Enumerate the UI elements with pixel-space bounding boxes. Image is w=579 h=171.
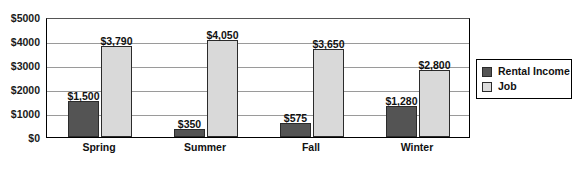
y-axis-tick-label: $5000 (0, 13, 40, 24)
legend-label-rental-income: Rental Income (498, 66, 570, 77)
y-axis-tick-label: $0 (0, 133, 40, 144)
x-axis: SpringSummerFallWinter (46, 141, 470, 159)
bar (101, 46, 132, 137)
bar-value-label: $1,500 (67, 91, 99, 102)
y-axis-tick-label: $4000 (0, 37, 40, 48)
bar (280, 123, 311, 137)
legend-swatch-job (482, 82, 492, 92)
bar-chart: $0$1000$2000$3000$4000$5000 $1,500$3,790… (0, 0, 579, 171)
bar (313, 49, 344, 137)
bar (207, 40, 238, 137)
legend-item-job: Job (482, 79, 566, 94)
bar-value-label: $1,280 (385, 96, 417, 107)
x-axis-tick-label: Summer (184, 141, 226, 153)
plot-area: $1,500$3,790$350$4,050$575$3,650$1,280$2… (46, 18, 470, 138)
bar (68, 101, 99, 137)
x-axis-tick-label: Winter (401, 141, 434, 153)
legend-swatch-rental-income (482, 67, 492, 77)
chart-legend: Rental Income Job (476, 59, 572, 99)
bar-value-label: $2,800 (418, 60, 450, 71)
bar-value-label: $350 (178, 119, 201, 130)
x-axis-tick-label: Spring (82, 141, 115, 153)
x-axis-tick-label: Fall (302, 141, 320, 153)
bar-value-label: $3,650 (312, 39, 344, 50)
legend-item-rental-income: Rental Income (482, 64, 566, 79)
y-axis-tick-label: $2000 (0, 85, 40, 96)
y-axis: $0$1000$2000$3000$4000$5000 (0, 0, 40, 171)
bar-value-label: $4,050 (206, 30, 238, 41)
y-axis-tick-label: $1000 (0, 109, 40, 120)
bar (386, 106, 417, 137)
bar (419, 70, 450, 137)
legend-label-job: Job (498, 81, 517, 92)
bar-value-label: $575 (284, 113, 307, 124)
y-axis-tick-label: $3000 (0, 61, 40, 72)
bar (174, 129, 205, 137)
bar-value-label: $3,790 (100, 36, 132, 47)
